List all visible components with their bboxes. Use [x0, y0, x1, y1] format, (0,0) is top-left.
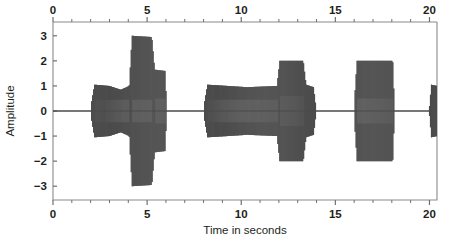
y-axis-tick-label: 1 — [41, 80, 48, 92]
top-axis-tick-label: 10 — [235, 4, 248, 16]
top-axis-tick-label: 5 — [144, 4, 151, 16]
y-axis-tick-label: 3 — [41, 30, 47, 42]
y-axis-tick-label: −1 — [34, 130, 48, 142]
top-axis-tick-label: 20 — [423, 4, 436, 16]
x-axis-title: Time in seconds — [203, 224, 287, 236]
y-axis-tick-label: −2 — [34, 155, 47, 167]
top-axis-tick-label: 15 — [329, 4, 342, 16]
waveform-figure: 05101520 05101520 3210−1−2−3 Time in sec… — [0, 0, 452, 240]
waveform-plot: 05101520 05101520 3210−1−2−3 Time in sec… — [0, 0, 452, 240]
y-axis-title: Amplitude — [4, 85, 16, 136]
y-axis-tick-label: −3 — [34, 180, 47, 192]
bottom-axis-tick-label: 15 — [329, 208, 342, 220]
bottom-axis-tick-label: 20 — [423, 208, 436, 220]
y-axis-tick-label: 0 — [41, 105, 47, 117]
y-axis-tick-label: 2 — [41, 55, 47, 67]
bottom-axis-tick-label: 5 — [144, 208, 151, 220]
bottom-axis-tick-label: 0 — [50, 208, 56, 220]
top-axis-tick-label: 0 — [50, 4, 56, 16]
bottom-axis-tick-label: 10 — [235, 208, 248, 220]
